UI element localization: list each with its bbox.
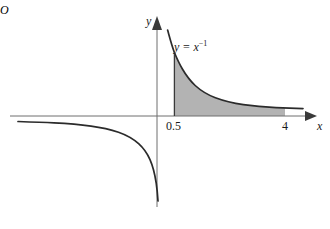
y-axis-label: y — [146, 15, 151, 27]
curve-equation-base: y = x — [174, 40, 199, 54]
curve-equation-exponent: −1 — [199, 39, 208, 48]
x-tick-label-0-5: 0.5 — [166, 120, 181, 132]
graph-canvas — [0, 0, 330, 229]
x-tick-label-4: 4 — [282, 120, 288, 132]
y-axis-arrowhead — [152, 16, 162, 30]
hyperbola-left-branch — [18, 122, 158, 202]
math-graph-figure: y x O 0.5 4 y = x−1 — [0, 0, 330, 229]
curve-equation-label: y = x−1 — [174, 40, 207, 53]
x-axis-label: x — [317, 120, 322, 132]
x-axis-arrowhead — [305, 111, 317, 121]
